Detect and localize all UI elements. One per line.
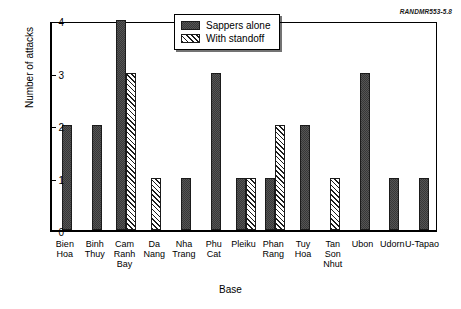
x-axis-tick-label-line: Tuy [296, 239, 311, 249]
x-axis-tick-label: BienHoa [56, 240, 74, 260]
x-axis-tick-label-line: Hoa [295, 249, 312, 259]
bar-nha-trang-solid [181, 178, 191, 231]
bar-pleiku-hatch [246, 178, 256, 231]
x-axis-tick-label-line: Rang [263, 249, 285, 259]
x-axis-tick-label-line: Phan [263, 239, 284, 249]
y-axis-tick-mark [50, 75, 56, 76]
x-axis-tick-label-line: Trang [172, 249, 195, 259]
x-axis-tick-label: Ubon [352, 240, 374, 250]
bar-tan-son-nhut-hatch [330, 178, 340, 231]
x-axis-tick-label-line: Ubon [352, 239, 374, 249]
bar-cam-ranh-bay-hatch [126, 73, 136, 231]
bar-phu-cat-solid [211, 73, 221, 231]
x-axis-tick-label-line: Pleiku [231, 239, 256, 249]
x-axis-title: Base [0, 284, 461, 295]
x-axis-tick-label-line: Thuy [85, 249, 105, 259]
x-axis-tick-label-line: Cam [115, 239, 134, 249]
figure-bar-chart: RANDMR553-5.8 01234 Number of attacks Bi… [0, 0, 461, 309]
x-axis-tick-label: DaNang [143, 240, 165, 260]
x-axis-tick-label: BinhThuy [85, 240, 105, 260]
bar-udorn-solid [389, 178, 399, 231]
legend-item: With standoff [181, 32, 271, 45]
legend-item-label: With standoff [206, 33, 264, 44]
x-axis-tick-label: NhaTrang [172, 240, 195, 260]
x-axis-tick-label-line: Son [325, 249, 341, 259]
plot-frame [50, 22, 437, 232]
x-axis-tick-label-line: Binh [86, 239, 104, 249]
y-axis-tick-mark [50, 180, 56, 181]
y-axis-tick-label: 4 [42, 17, 64, 28]
legend-item-label: Sappers alone [206, 20, 271, 31]
figure-id-label: RANDMR553-5.8 [400, 8, 452, 15]
x-axis-tick-label-line: Phu [206, 239, 222, 249]
plot-area [52, 23, 436, 230]
legend-swatch-hatch [181, 34, 200, 43]
x-axis-tick-label-line: U-Tapao [405, 239, 439, 249]
x-axis-tick-label: PhanRang [263, 240, 285, 260]
x-axis-tick-label-line: Nha [176, 239, 193, 249]
bar-ubon-solid [360, 73, 370, 231]
bar-phan-rang-solid [265, 178, 275, 231]
bar-cam-ranh-bay-solid [116, 20, 126, 230]
legend-swatch-solid [181, 21, 200, 30]
y-axis-title: Number of attacks [24, 0, 35, 143]
bar-binh-thuy-solid [92, 125, 102, 230]
x-axis-tick-label-line: Nhut [323, 259, 342, 269]
bar-da-nang-hatch [151, 178, 161, 231]
x-axis-tick-label: Pleiku [231, 240, 256, 250]
x-axis-tick-label: CamRanhBay [114, 240, 136, 269]
x-axis-tick-label-line: Cat [207, 249, 221, 259]
bar-pleiku-solid [236, 178, 246, 231]
x-axis-tick-label-line: Bay [117, 259, 133, 269]
chart-legend: Sappers aloneWith standoff [174, 14, 280, 50]
x-axis-tick-label: TuyHoa [295, 240, 312, 260]
x-axis-tick-label-line: Udorn [380, 239, 405, 249]
y-axis-tick-mark [50, 127, 56, 128]
y-axis-tick-label: 0 [42, 227, 64, 238]
x-axis-tick-label-line: Ranh [114, 249, 136, 259]
legend-item: Sappers alone [181, 19, 271, 32]
bar-tuy-hoa-solid [300, 125, 310, 230]
bar-phan-rang-hatch [275, 125, 285, 230]
x-axis-tick-label: PhuCat [206, 240, 222, 260]
x-axis-tick-label: U-Tapao [405, 240, 439, 250]
x-axis-tick-label-line: Da [148, 239, 160, 249]
x-axis-tick-label-line: Bien [56, 239, 74, 249]
x-axis-tick-label: Udorn [380, 240, 405, 250]
x-axis-tick-label-line: Hoa [57, 249, 74, 259]
x-axis-tick-label-line: Nang [143, 249, 165, 259]
x-axis-tick-label-line: Tan [326, 239, 341, 249]
x-axis-tick-label: TanSonNhut [323, 240, 342, 269]
bar-u-tapao-solid [419, 178, 429, 231]
